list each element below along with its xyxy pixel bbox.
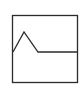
graph-frame <box>13 16 78 83</box>
line-graph-svg <box>0 0 79 90</box>
graph-line <box>13 32 78 52</box>
line-graph-icon <box>0 0 79 90</box>
